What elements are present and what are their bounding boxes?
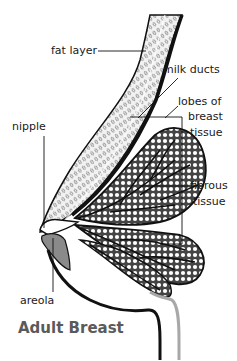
label-fibrous-line1: fibrous	[190, 180, 228, 192]
nipple-areola-shape	[40, 219, 78, 270]
diagram-title: Adult Breast	[18, 319, 124, 337]
label-areola: areola	[20, 295, 54, 307]
label-nipple: nipple	[12, 121, 46, 133]
label-milk-ducts: milk ducts	[163, 64, 220, 76]
label-fat-layer: fat layer	[51, 45, 97, 57]
label-lobes-line1: lobes of	[178, 96, 221, 108]
lobes-leader	[165, 106, 178, 118]
label-lobes-line2: breast	[188, 111, 223, 123]
chest-wall-outline	[150, 292, 179, 360]
label-lobes-line3: tissue	[190, 127, 223, 139]
label-fibrous-line2: tissue	[193, 196, 226, 208]
